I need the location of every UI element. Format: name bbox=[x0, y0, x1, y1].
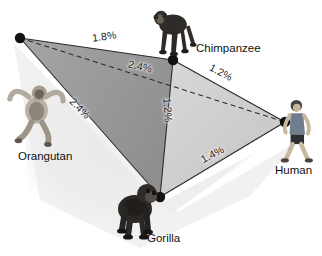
species-label-orangutan: Orangutan bbox=[18, 150, 72, 162]
diagram-canvas bbox=[0, 0, 322, 256]
cropped-header-text bbox=[36, 0, 196, 5]
vertex-orangutan bbox=[15, 33, 25, 43]
phylogenetic-distance-diagram: 1.8% 2.4% 1.2% 2.4% 1.2% 1.4% Chimpanzee… bbox=[0, 0, 322, 256]
species-label-chimpanzee: Chimpanzee bbox=[196, 42, 261, 54]
vertex-chimpanzee bbox=[168, 55, 178, 65]
edge-label-chimpanzee-gorilla: 1.2% bbox=[161, 97, 175, 122]
species-label-human: Human bbox=[275, 164, 312, 176]
species-label-gorilla: Gorilla bbox=[147, 232, 180, 244]
chimpanzee-illustration bbox=[154, 11, 197, 56]
